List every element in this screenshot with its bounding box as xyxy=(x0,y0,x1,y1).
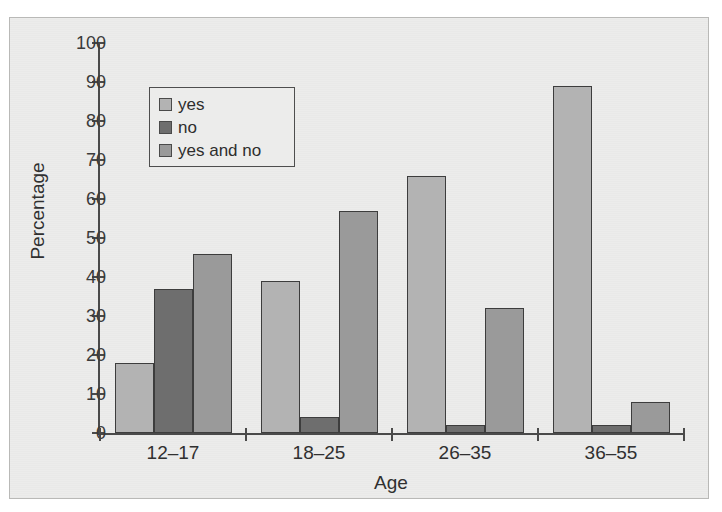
x-tick-mark xyxy=(245,428,247,441)
bar xyxy=(193,254,232,433)
bar xyxy=(485,308,524,433)
figure-container: 0102030405060708090100 12–1718–2526–3536… xyxy=(0,0,722,512)
x-group-label: 18–25 xyxy=(259,443,379,464)
bar xyxy=(407,176,446,433)
bar xyxy=(339,211,378,433)
x-axis-title: Age xyxy=(98,472,684,494)
legend: yes no yes and no xyxy=(149,87,295,167)
legend-label-no: no xyxy=(178,119,197,136)
y-tick-label: 40 xyxy=(50,268,106,286)
bar xyxy=(631,402,670,433)
bar xyxy=(261,281,300,433)
legend-label-yes-and-no: yes and no xyxy=(178,142,261,159)
bar xyxy=(553,86,592,433)
x-tick-mark xyxy=(683,428,685,441)
bar xyxy=(154,289,193,433)
legend-swatch-icon-no xyxy=(159,121,172,134)
y-tick-label: 80 xyxy=(50,112,106,130)
y-tick-label: 90 xyxy=(50,73,106,91)
y-tick-label: 60 xyxy=(50,190,106,208)
y-tick-label: 30 xyxy=(50,307,106,325)
plot-area: 0102030405060708090100 12–1718–2526–3536… xyxy=(0,0,722,512)
y-tick-label: 70 xyxy=(50,151,106,169)
y-tick-label: 20 xyxy=(50,346,106,364)
y-tick-label: 100 xyxy=(50,34,106,52)
x-tick-mark xyxy=(391,428,393,441)
legend-item-no: no xyxy=(159,116,294,139)
y-axis-title: Percentage xyxy=(27,111,49,311)
bar xyxy=(592,425,631,433)
legend-item-yes-and-no: yes and no xyxy=(159,139,294,162)
bar xyxy=(300,417,339,433)
y-tick-label: 50 xyxy=(50,229,106,247)
x-group-label: 26–35 xyxy=(405,443,525,464)
legend-swatch-icon-yes xyxy=(159,98,172,111)
bar xyxy=(115,363,154,433)
x-group-label: 12–17 xyxy=(113,443,233,464)
x-tick-mark xyxy=(99,428,101,441)
x-tick-mark xyxy=(537,428,539,441)
y-tick-label: 10 xyxy=(50,385,106,403)
legend-item-yes: yes xyxy=(159,93,294,116)
bar xyxy=(446,425,485,433)
legend-swatch-icon-yes-and-no xyxy=(159,144,172,157)
y-tick-label: 0 xyxy=(50,424,106,442)
x-group-label: 36–55 xyxy=(551,443,671,464)
legend-label-yes: yes xyxy=(178,96,204,113)
